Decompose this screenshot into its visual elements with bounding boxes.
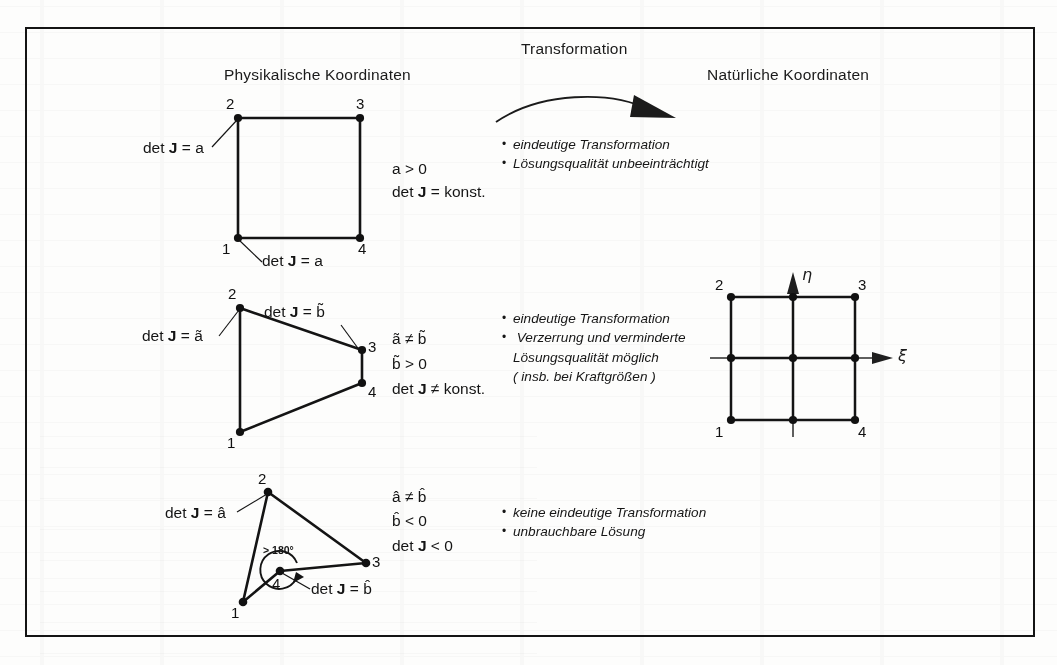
trapezoid-equation-2: b̃ > 0	[392, 355, 427, 373]
concave-node-label-1: 1	[231, 604, 239, 621]
concave-callout-node4-tail: = b̂	[345, 580, 371, 597]
square-equation-2-tail: = konst.	[426, 183, 485, 200]
square-equation-2-lead: det	[392, 183, 418, 200]
trapezoid-callout-node2-tail: = ã	[176, 327, 202, 344]
trapezoid-equation-1: ã ≠ b̃	[392, 330, 426, 348]
concave-callout-node4: det J = b̂	[311, 580, 372, 598]
node-dots-trapezoid	[236, 304, 366, 436]
heading-physical-coordinates: Physikalische Koordinaten	[224, 66, 411, 84]
heading-natural-coordinates: Natürliche Koordinaten	[707, 66, 869, 84]
list-item: eindeutige Transformation	[513, 135, 709, 154]
concave-equation-3-j: J	[418, 537, 427, 554]
concave-equation-3: det J < 0	[392, 537, 453, 555]
eta-axis-label: η	[802, 266, 812, 284]
trapezoid-equation-3-konst: konst.	[444, 380, 485, 397]
list-item-line2: Lösungsqualität möglich	[513, 348, 686, 367]
xi-axis-arrowhead	[872, 352, 893, 364]
list-item-line1: Verzerrung und verminderte	[517, 330, 686, 345]
natural-node-label-3: 3	[858, 276, 866, 293]
list-item-line3: ( insb. bei Kraftgrößen )	[513, 367, 686, 386]
natural-node-label-4: 4	[858, 423, 866, 440]
concave-node-label-3: 3	[372, 553, 380, 570]
concave-equation-2: b̂ < 0	[392, 512, 427, 530]
reflex-angle-label: > 180°	[263, 544, 294, 556]
list-item: keine eindeutige Transformation	[513, 503, 706, 522]
square-callout-node1-prefix: det	[262, 252, 288, 269]
list-item: unbrauchbare Lösung	[513, 522, 706, 541]
transformation-arrow	[496, 97, 650, 122]
trapezoid-node-label-4: 4	[368, 383, 376, 400]
square-equation-1: a > 0	[392, 160, 427, 178]
natural-node-label-1: 1	[715, 423, 723, 440]
concave-equation-3-lt: <	[431, 537, 440, 554]
square-callout-node1: det J = a	[262, 252, 323, 270]
node-dots-square	[234, 114, 364, 242]
trapezoid-node-label-3: 3	[368, 338, 376, 355]
square-equation-2: det J = konst.	[392, 183, 486, 201]
trapezoid-callout-node2-prefix: det	[142, 327, 168, 344]
xi-axis-label: ξ	[898, 347, 907, 365]
square-node-label-4: 4	[358, 240, 366, 257]
transformation-arrowhead	[630, 95, 676, 118]
concave-equation-3-zero: 0	[444, 537, 453, 554]
trapezoid-equation-3: det J ≠ konst.	[392, 380, 485, 398]
trapezoid-callout-node3-tail: = b̃	[298, 303, 324, 320]
concave-callout-node2-prefix: det	[165, 504, 191, 521]
square-callout-node2-tail: = a	[177, 139, 203, 156]
callout-leader-lines	[212, 120, 360, 589]
square-callout-node2-prefix: det	[143, 139, 169, 156]
eta-axis-arrowhead	[787, 272, 799, 294]
square-node-label-1: 1	[222, 240, 230, 257]
concave-callout-node2: det J = â	[165, 504, 226, 522]
square-callout-node1-tail: = a	[296, 252, 322, 269]
trapezoid-bullet-list: eindeutige Transformation Verzerrung und…	[500, 309, 686, 386]
square-node-label-2: 2	[226, 95, 234, 112]
concave-callout-node4-prefix: det	[311, 580, 337, 597]
list-item: eindeutige Transformation	[513, 309, 686, 328]
reflex-angle-arrowhead	[293, 572, 304, 583]
shape-trapezoid	[240, 308, 362, 432]
trapezoid-callout-node3-prefix: det	[264, 303, 290, 320]
concave-equation-1: â ≠ b̂	[392, 488, 426, 506]
square-node-label-3: 3	[356, 95, 364, 112]
trapezoid-node-label-2: 2	[228, 285, 236, 302]
trapezoid-callout-node2: det J = ã	[142, 327, 203, 345]
concave-callout-node2-tail: = â	[199, 504, 225, 521]
natural-node-label-2: 2	[715, 276, 723, 293]
square-bullet-list: eindeutige Transformation Lösungsqualitä…	[500, 135, 709, 174]
trapezoid-equation-3-j: J	[418, 380, 427, 397]
concave-node-label-2: 2	[258, 470, 266, 487]
concave-equation-3-lead: det	[392, 537, 414, 554]
trapezoid-equation-3-ne: ≠	[431, 380, 440, 397]
concave-bullet-list: keine eindeutige Transformation unbrauch…	[500, 503, 706, 542]
shape-square	[238, 118, 360, 238]
trapezoid-equation-3-lead: det	[392, 380, 414, 397]
trapezoid-node-label-1: 1	[227, 434, 235, 451]
list-item: Verzerrung und verminderte Lösungsqualit…	[513, 328, 686, 386]
trapezoid-callout-node3: det J = b̃	[264, 303, 325, 321]
concave-node-label-4: 4	[272, 575, 280, 592]
list-item: Lösungsqualität unbeeinträchtigt	[513, 154, 709, 173]
square-callout-node2: det J = a	[143, 139, 204, 157]
heading-transformation: Transformation	[521, 40, 627, 58]
